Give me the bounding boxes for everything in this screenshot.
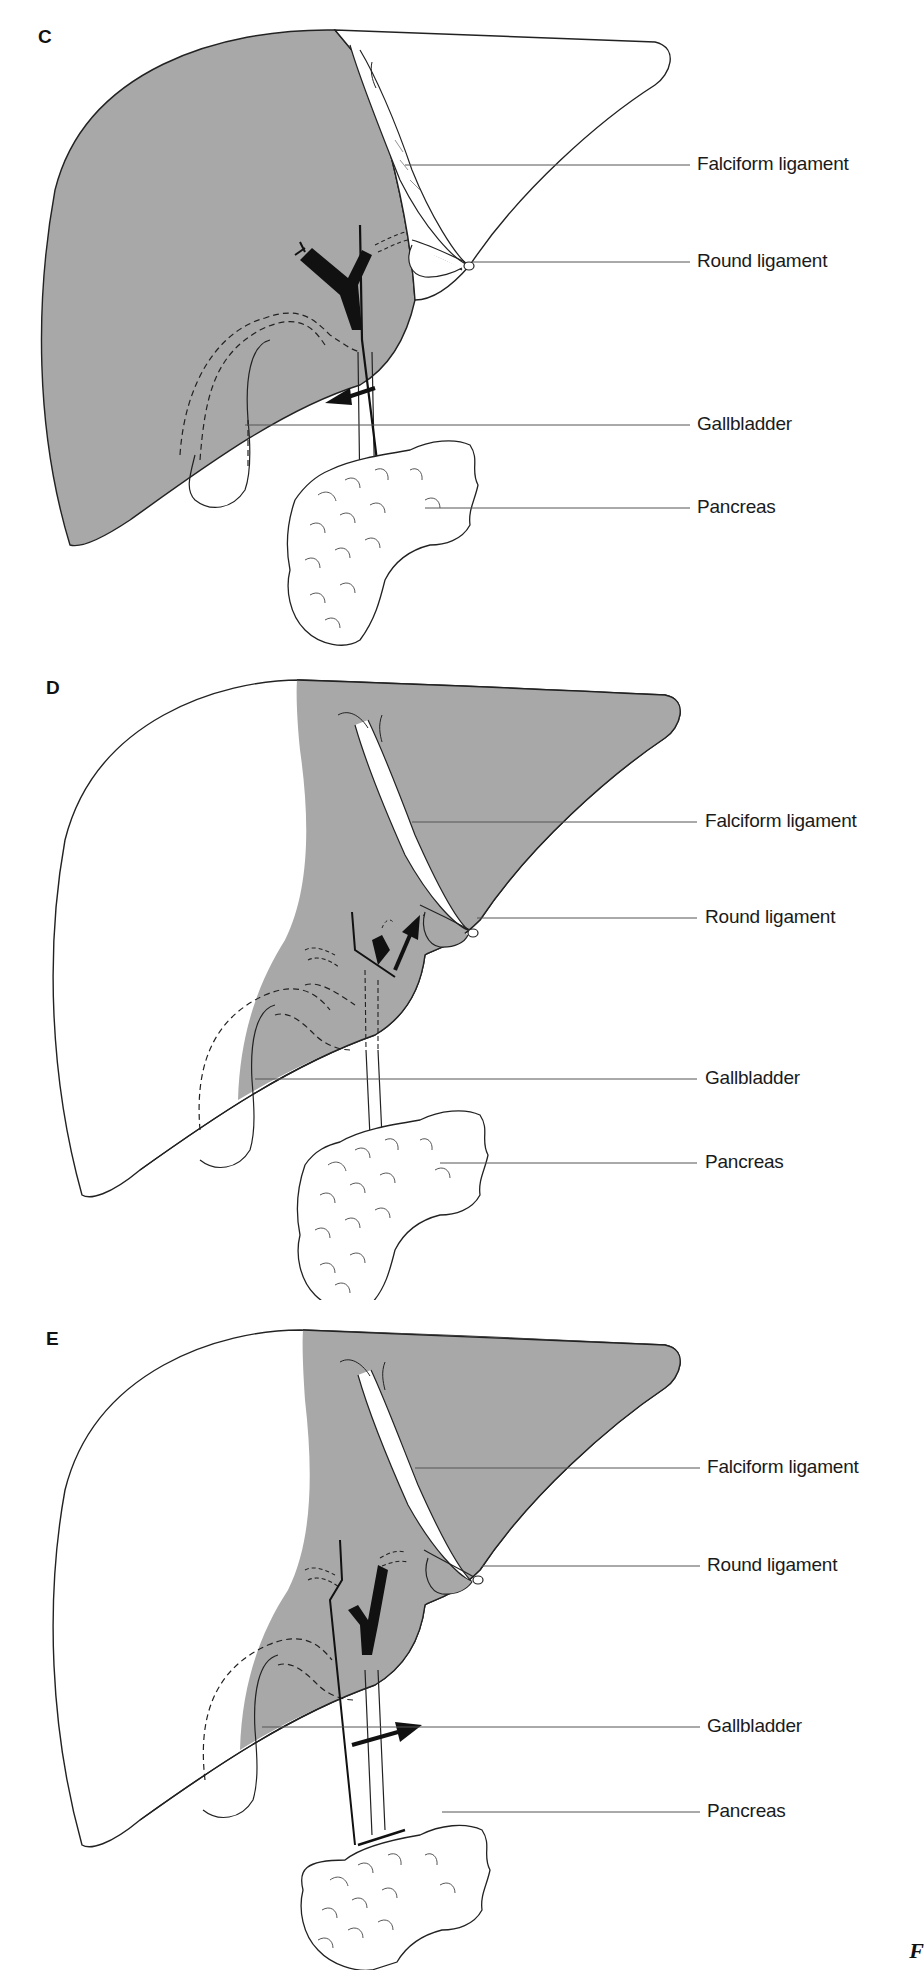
label-round-ligament: Round ligament bbox=[707, 1554, 837, 1576]
panel-d: D Falciform ligament Round ligament Gall… bbox=[0, 650, 920, 1300]
liver-diagram-c bbox=[0, 0, 920, 650]
figure-label-fragment: F bbox=[909, 1938, 924, 1964]
pancreas bbox=[288, 441, 478, 645]
label-gallbladder: Gallbladder bbox=[705, 1067, 800, 1089]
direction-arrow-right bbox=[352, 1732, 398, 1745]
label-pancreas: Pancreas bbox=[705, 1151, 784, 1173]
liver-shaded-region bbox=[238, 680, 680, 1100]
panel-e: E Falciform ligament Round ligament Gall… bbox=[0, 1300, 920, 1970]
pancreas bbox=[301, 1825, 490, 1970]
label-falciform-ligament: Falciform ligament bbox=[705, 810, 857, 832]
label-falciform-ligament: Falciform ligament bbox=[707, 1456, 859, 1478]
label-pancreas: Pancreas bbox=[707, 1800, 786, 1822]
liver-shaded-region bbox=[240, 1330, 680, 1750]
panel-letter-c: C bbox=[38, 26, 52, 48]
label-pancreas: Pancreas bbox=[697, 496, 776, 518]
panel-c: C Falciform ligament Round ligament Gall… bbox=[0, 0, 920, 650]
common-bile-duct bbox=[365, 1670, 385, 1835]
panel-letter-d: D bbox=[46, 677, 60, 699]
liver-diagram-e bbox=[0, 1300, 920, 1970]
label-falciform-ligament: Falciform ligament bbox=[697, 153, 849, 175]
label-gallbladder: Gallbladder bbox=[697, 413, 792, 435]
liver-diagram-d bbox=[0, 650, 920, 1300]
label-round-ligament: Round ligament bbox=[705, 906, 835, 928]
label-gallbladder: Gallbladder bbox=[707, 1715, 802, 1737]
panel-letter-e: E bbox=[46, 1328, 59, 1350]
label-round-ligament: Round ligament bbox=[697, 250, 827, 272]
